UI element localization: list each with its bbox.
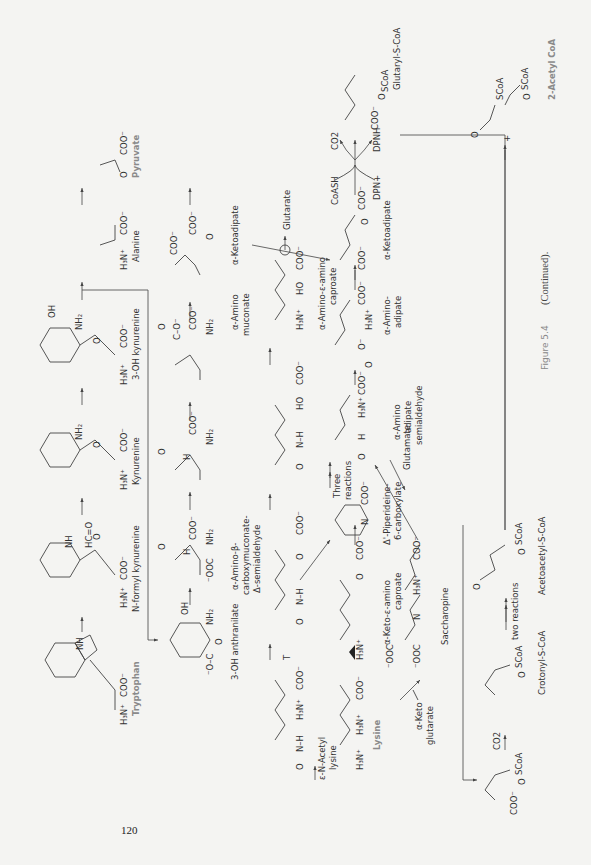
svg-text:H: H xyxy=(182,454,192,460)
svg-text:O: O xyxy=(119,171,129,178)
svg-text:COO⁻: COO⁻ xyxy=(188,211,198,235)
svg-text:CO2: CO2 xyxy=(492,732,502,750)
compound-name: Kynurenine xyxy=(131,437,141,485)
two-acetyl-coa-structure: O SCoA O SCoA 2-Acetyl CoA xyxy=(470,39,557,138)
svg-text:T: T xyxy=(282,654,292,661)
pathway-diagram: NH COO⁻ H₃N⁺ Tryptophan NH HC=O O COO⁻ H… xyxy=(0,0,591,865)
svg-text:COO⁻: COO⁻ xyxy=(188,411,198,435)
svg-text:COO⁻: COO⁻ xyxy=(295,666,305,690)
svg-text:COO⁻: COO⁻ xyxy=(357,246,367,270)
svg-text:H: H xyxy=(182,549,192,555)
svg-text:O: O xyxy=(295,618,305,625)
svg-text:H₃N⁺: H₃N⁺ xyxy=(364,309,374,330)
svg-text:O: O xyxy=(470,131,480,138)
svg-text:COO⁻: COO⁻ xyxy=(370,106,380,130)
svg-text:COO⁻: COO⁻ xyxy=(509,791,519,815)
alpha-ketoadipate-top-structure: COO⁻ COO⁻ O α-Ketoadipate xyxy=(169,205,240,275)
svg-text:OH: OH xyxy=(180,602,190,615)
svg-text:Δ-semialdehyde: Δ-semialdehyde xyxy=(252,525,262,593)
svg-text:H₃N⁺: H₃N⁺ xyxy=(355,639,365,660)
svg-text:O: O xyxy=(517,548,527,555)
svg-text:⁻OOC: ⁻OOC xyxy=(205,558,215,582)
svg-text:SCoA: SCoA xyxy=(514,522,524,545)
carboxymuconate-semialdehyde-structure: O H COO⁻ NH₂ ⁻OOC α-Amino-β- carboxymuco… xyxy=(157,515,262,595)
svg-text:O⁻: O⁻ xyxy=(357,339,367,350)
glutarate-label: Glutarate xyxy=(282,190,292,230)
svg-text:O: O xyxy=(295,763,305,770)
svg-text:H₃N⁺: H₃N⁺ xyxy=(295,699,305,720)
svg-text:CoASH: CoASH xyxy=(330,176,340,205)
compound-name: Lysine xyxy=(372,720,382,750)
svg-text:SCoA: SCoA xyxy=(495,77,505,100)
amino-adipate-structure: O O⁻ H₃N⁺ COO⁻ α-Amino- adipate xyxy=(335,281,403,368)
svg-text:O: O xyxy=(157,543,167,550)
svg-text:COO⁻: COO⁻ xyxy=(357,281,367,305)
svg-text:adipate: adipate xyxy=(393,296,403,328)
svg-text:N–H: N–H xyxy=(295,431,305,448)
h3n-group: H₃N⁺ xyxy=(119,704,129,725)
svg-text:caproate: caproate xyxy=(393,572,403,610)
aminomuconate-semialdehyde-structure: O H COO⁻ NH₂ xyxy=(157,411,215,480)
acetyl-keto-structure: O N–H O COO⁻ xyxy=(275,511,305,625)
svg-text:O: O xyxy=(357,453,367,460)
svg-text:O: O xyxy=(157,323,167,330)
nh-group: NH xyxy=(75,637,85,650)
compound-name: 3-OH kynurenine xyxy=(131,308,141,380)
svg-text:O: O xyxy=(157,448,167,455)
svg-text:H₃N⁺: H₃N⁺ xyxy=(412,574,422,595)
svg-text:COO⁻: COO⁻ xyxy=(295,361,305,385)
svg-text:COO⁻: COO⁻ xyxy=(357,371,367,395)
svg-text:O: O xyxy=(517,778,527,785)
svg-text:H: H xyxy=(357,434,367,440)
svg-text:COO⁻: COO⁻ xyxy=(412,536,422,560)
compound-name: Saccharopine xyxy=(440,588,450,645)
svg-text:DPN+: DPN+ xyxy=(372,175,382,200)
page-number: 120 xyxy=(121,824,138,836)
compound-name: 2-Acetyl CoA xyxy=(547,39,557,100)
svg-text:muconate: muconate xyxy=(241,293,251,336)
svg-text:HO: HO xyxy=(295,282,305,295)
amino-epsilon-amino-caproate-structure: H₃N⁺ HO COO⁻ α-Amino-ε-amino caproate xyxy=(275,246,338,330)
pyruvate-structure: COO⁻ O Pyruvate xyxy=(100,131,141,178)
svg-text:O: O xyxy=(205,233,215,240)
svg-text:COO⁻: COO⁻ xyxy=(169,231,179,255)
svg-text:COO⁻: COO⁻ xyxy=(188,516,198,540)
svg-text:α-Amino-ε-amino: α-Amino-ε-amino xyxy=(317,257,327,330)
svg-text:two reactions: two reactions xyxy=(510,582,520,640)
glutaryl-scoa-structure: COO⁻ O SCoA Glutaryl-S-CoA xyxy=(345,28,402,130)
svg-text:H₃N⁺: H₃N⁺ xyxy=(119,364,129,385)
svg-text:SCoA: SCoA xyxy=(514,645,524,668)
svg-text:α-Keto: α-Keto xyxy=(414,702,424,730)
svg-text:N: N xyxy=(412,614,422,620)
svg-text:⁻OOC: ⁻OOC xyxy=(412,644,422,668)
svg-text:⁻O–C: ⁻O–C xyxy=(205,654,215,675)
svg-text:DPNH: DPNH xyxy=(372,128,382,152)
svg-text:O: O xyxy=(355,573,365,580)
svg-text:caproate: caproate xyxy=(328,267,338,305)
keto-amino-caproate-structure: H₃N⁺ O COO⁻ α-Keto-ε-amino caproate xyxy=(340,536,403,660)
svg-text:COO⁻: COO⁻ xyxy=(295,511,305,535)
svg-text:Three: Three xyxy=(332,474,342,499)
svg-text:NH₂: NH₂ xyxy=(74,314,84,330)
svg-text:O: O xyxy=(377,93,387,100)
figure-label: Figure 5.4 xyxy=(540,325,550,370)
svg-text:Glutamate: Glutamate xyxy=(402,425,412,470)
acetyl-hydroxy-structure: O N–H HO COO⁻ xyxy=(275,361,305,470)
svg-text:COO⁻: COO⁻ xyxy=(119,324,129,348)
svg-text:H₃N⁺: H₃N⁺ xyxy=(355,749,365,770)
oxidative-decarboxylation: CoASH DPN+ CO2 DPNH xyxy=(330,128,382,205)
svg-text:H₃N⁺: H₃N⁺ xyxy=(357,397,367,418)
svg-text:lysine: lysine xyxy=(328,745,338,770)
alanine-structure: COO⁻ H₃N⁺ Alanine xyxy=(100,211,141,270)
svg-text:SCoA: SCoA xyxy=(380,69,390,92)
compound-name: Tryptophan xyxy=(131,661,141,716)
coo-group: COO⁻ xyxy=(119,673,129,697)
svg-text:O: O xyxy=(517,671,527,678)
compound-name: Alanine xyxy=(131,230,141,262)
acetyl-lysine-structure: O N–H H₃N⁺ COO⁻ ε-N-Acetyl lysine xyxy=(275,666,338,780)
svg-text:H₃N⁺: H₃N⁺ xyxy=(119,469,129,490)
svg-text:COO⁻: COO⁻ xyxy=(119,428,129,452)
n-formyl-kynurenine-structure: NH HC=O O COO⁻ H₃N⁺ N-formyl kynurenine xyxy=(40,522,141,612)
svg-text:glutarate: glutarate xyxy=(425,706,435,745)
lysine-structure: H₃N⁺ H₃N⁺ COO⁻ Lysine xyxy=(340,676,382,770)
